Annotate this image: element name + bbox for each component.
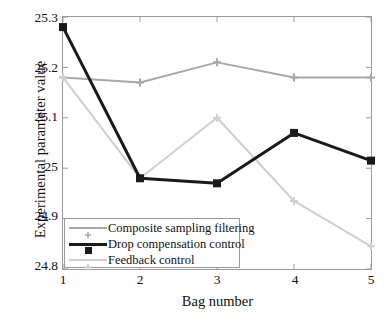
legend-swatch-drop-compensation-control (68, 237, 108, 251)
x-axis-title: Bag number (62, 293, 373, 310)
legend-label-drop-compensation-control: Drop compensation control (108, 237, 245, 252)
x-tick-label-2: 2 (128, 272, 152, 288)
cross-marker-icon (85, 257, 92, 264)
data-point-marker (59, 23, 67, 31)
legend-label-composite-sampling-filtering: Composite sampling filtering (108, 221, 255, 236)
y-axis-title: Experimental parameter value (32, 20, 49, 280)
legend-entry-composite-sampling-filtering: Composite sampling filtering (65, 220, 239, 236)
square-marker-icon (85, 241, 92, 248)
data-point-marker (136, 174, 144, 182)
legend-entry-feedback-control: Feedback control (65, 252, 239, 268)
data-point-marker (213, 179, 221, 187)
legend-entry-drop-compensation-control: Drop compensation control (65, 236, 239, 252)
x-tick-label-5: 5 (359, 272, 383, 288)
legend: Composite sampling filtering Drop compen… (64, 218, 240, 268)
plot-canvas (0, 0, 388, 318)
legend-swatch-feedback-control (68, 253, 108, 267)
x-tick-label-3: 3 (205, 272, 229, 288)
legend-swatch-composite-sampling-filtering (68, 221, 108, 235)
chart-figure: 25.3 25.2 25.1 25 24.9 24.8 1 2 3 4 5 Ex… (0, 0, 388, 318)
data-point-marker (290, 129, 298, 137)
cross-marker-icon (85, 225, 92, 232)
legend-label-feedback-control: Feedback control (108, 253, 194, 268)
data-point-marker (367, 157, 375, 165)
x-tick-label-1: 1 (51, 272, 75, 288)
x-tick-label-4: 4 (283, 272, 307, 288)
